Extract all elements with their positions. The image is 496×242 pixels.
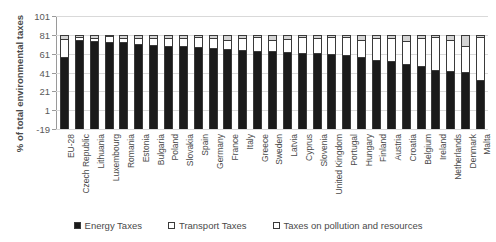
bar-segment-energy (447, 72, 454, 129)
bar-segment-energy (477, 81, 484, 129)
bar-segment-energy (61, 58, 68, 129)
x-label-slot: Croatia (399, 132, 414, 212)
stacked-bar[interactable] (223, 35, 232, 129)
bar-segment-energy (462, 73, 469, 129)
stacked-bar[interactable] (283, 35, 292, 129)
stacked-bar[interactable] (357, 35, 366, 129)
bar-slot (310, 16, 325, 129)
bar-segment-transport (224, 41, 231, 51)
stacked-bar[interactable] (431, 35, 440, 129)
stacked-bar[interactable] (313, 35, 322, 129)
stacked-bar[interactable] (417, 35, 426, 129)
x-label-slot: Lithuania (87, 132, 102, 212)
chart-legend: Energy TaxesTransport TaxesTaxes on poll… (0, 220, 496, 231)
bar-slot (280, 16, 295, 129)
y-tick-mark (52, 73, 56, 74)
legend-item[interactable]: Taxes on pollution and resources (273, 220, 423, 231)
stacked-bar[interactable] (327, 35, 336, 129)
stacked-bar[interactable] (238, 35, 247, 129)
y-tick-label: 1 (45, 105, 50, 116)
bar-segment-energy (150, 46, 157, 129)
bar-slot (369, 16, 384, 129)
y-tick-label: 21 (39, 86, 50, 97)
bar-segment-pollution (462, 36, 469, 47)
bar-segment-transport (343, 38, 350, 56)
gridline (56, 129, 488, 130)
legend-item[interactable]: Transport Taxes (168, 220, 247, 231)
stacked-bar[interactable] (387, 35, 396, 129)
y-tick-label: 61 (39, 48, 50, 59)
bar-slot (72, 16, 87, 129)
bar-segment-energy (343, 56, 350, 129)
bar-segment-transport (358, 41, 365, 58)
bar-segment-transport (447, 41, 454, 71)
stacked-bar[interactable] (446, 35, 455, 129)
stacked-bar[interactable] (119, 35, 128, 129)
bar-segment-energy (254, 52, 261, 129)
bar-slot (354, 16, 369, 129)
x-label-slot: EU-28 (57, 132, 72, 212)
stacked-bar[interactable] (194, 35, 203, 129)
bar-segment-transport (180, 39, 187, 48)
stacked-bar[interactable] (476, 35, 485, 129)
bar-slot (458, 16, 473, 129)
stacked-bar[interactable] (134, 35, 143, 129)
bar-slot (384, 16, 399, 129)
legend-item[interactable]: Energy Taxes (74, 220, 142, 231)
y-tick-label: 101 (34, 11, 50, 22)
stacked-bar[interactable] (90, 35, 99, 129)
bar-segment-transport (165, 39, 172, 46)
bar-segment-energy (135, 45, 142, 129)
stacked-bar[interactable] (402, 35, 411, 129)
x-label-slot: Luxembourg (102, 132, 117, 212)
bar-slot (161, 16, 176, 129)
bar-slot (87, 16, 102, 129)
stacked-bar[interactable] (268, 35, 277, 129)
stacked-bar[interactable] (149, 35, 158, 129)
x-label-slot: Czech Republic (72, 132, 87, 212)
stacked-bar[interactable] (60, 35, 69, 129)
x-label-slot: Cyprus (295, 132, 310, 212)
stacked-bar[interactable] (75, 35, 84, 129)
legend-label: Taxes on pollution and resources (284, 220, 423, 231)
bar-slot (250, 16, 265, 129)
x-axis-label: Malta (483, 134, 492, 155)
bar-slot (324, 16, 339, 129)
bar-slot (295, 16, 310, 129)
bar-slot (146, 16, 161, 129)
stacked-bar[interactable] (298, 35, 307, 129)
stacked-bar[interactable] (164, 35, 173, 129)
stacked-bar[interactable] (253, 35, 262, 129)
bar-segment-energy (165, 47, 172, 129)
bar-slot (191, 16, 206, 129)
x-label-slot: Estonia (131, 132, 146, 212)
stacked-bar[interactable] (179, 35, 188, 129)
bar-segment-energy (432, 71, 439, 129)
bar-segment-transport (477, 38, 484, 80)
x-label-slot: Finland (369, 132, 384, 212)
bar-slot (116, 16, 131, 129)
stacked-bar[interactable] (209, 35, 218, 129)
bar-group (57, 16, 488, 129)
stacked-bar[interactable] (342, 35, 351, 129)
bar-slot (399, 16, 414, 129)
bar-segment-transport (328, 38, 335, 55)
x-label-slot: Spain (191, 132, 206, 212)
bar-slot (428, 16, 443, 129)
y-tick-label: 81 (39, 29, 50, 40)
bar-segment-energy (239, 51, 246, 129)
bar-segment-transport (254, 38, 261, 52)
bar-segment-energy (106, 43, 113, 129)
x-label-slot: Latvia (280, 132, 295, 212)
bar-segment-transport (210, 39, 217, 49)
stacked-bar[interactable] (372, 35, 381, 129)
x-label-slot: Hungary (354, 132, 369, 212)
stacked-bar[interactable] (105, 35, 114, 129)
bar-segment-energy (284, 53, 291, 129)
x-label-slot: Slovakia (176, 132, 191, 212)
bar-slot (473, 16, 488, 129)
bar-slot (265, 16, 280, 129)
stacked-bar[interactable] (461, 35, 470, 129)
bar-segment-transport (299, 38, 306, 54)
bar-slot (220, 16, 235, 129)
